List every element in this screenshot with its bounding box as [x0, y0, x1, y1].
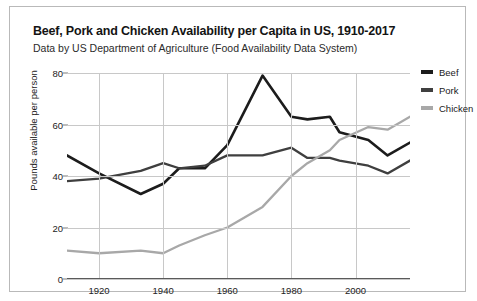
chart-subtitle: Data by US Department of Agriculture (Fo…	[33, 42, 463, 54]
y-tick-label: 20	[37, 222, 63, 233]
x-axis-ticks: 19201940196019802000	[67, 279, 410, 301]
y-tick-label: 40	[37, 171, 63, 182]
y-tick-label: 0	[37, 274, 63, 285]
gridline-horizontal	[67, 125, 410, 126]
legend-label: Beef	[439, 67, 459, 78]
legend-label: Chicken	[439, 103, 473, 114]
chart-frame: Beef, Pork and Chicken Availability per …	[9, 6, 466, 292]
legend-item-beef[interactable]: Beef	[421, 63, 477, 81]
gridline-vertical	[356, 73, 357, 279]
chart-legend: BeefPorkChicken	[421, 63, 477, 117]
gridline-vertical	[99, 73, 100, 279]
x-tick-label: 2000	[345, 285, 366, 296]
legend-swatch-icon	[421, 70, 433, 74]
gridline-horizontal	[67, 279, 410, 280]
y-tick-label: 60	[37, 119, 63, 130]
gridline-vertical	[291, 73, 292, 279]
x-tick-label: 1980	[281, 285, 302, 296]
x-tick-label: 1960	[217, 285, 238, 296]
chart-title: Beef, Pork and Chicken Availability per …	[33, 24, 453, 38]
legend-swatch-icon	[421, 106, 433, 110]
x-axis-line	[67, 278, 410, 279]
y-tick-label: 80	[37, 68, 63, 79]
y-axis-ticks: 020406080	[33, 73, 63, 279]
legend-label: Pork	[439, 85, 459, 96]
x-tick-label: 1920	[88, 285, 109, 296]
x-tick-label: 1940	[153, 285, 174, 296]
gridline-vertical	[163, 73, 164, 279]
plot-area	[67, 73, 410, 279]
legend-swatch-icon	[421, 88, 433, 92]
legend-item-pork[interactable]: Pork	[421, 81, 477, 99]
legend-item-chicken[interactable]: Chicken	[421, 99, 477, 117]
gridline-horizontal	[67, 228, 410, 229]
gridline-horizontal	[67, 176, 410, 177]
gridline-horizontal	[67, 73, 410, 74]
gridline-vertical	[227, 73, 228, 279]
